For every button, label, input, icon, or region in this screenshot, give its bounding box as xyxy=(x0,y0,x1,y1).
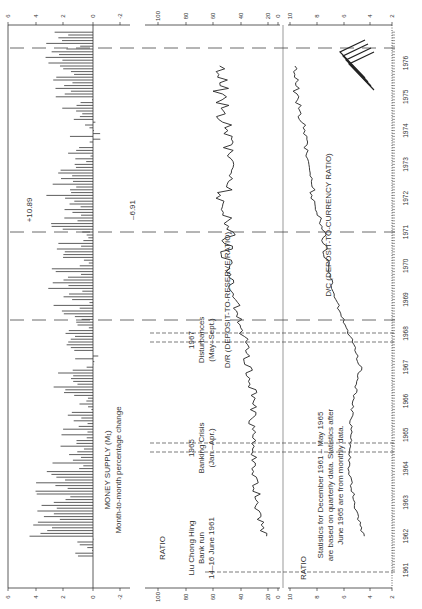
money-supply-subtitle: Month-to-month percentage change xyxy=(114,406,123,534)
annotations: MONEY SUPPLY (M₁) Month-to-month percent… xyxy=(25,153,345,580)
tick-label: 6 xyxy=(341,14,347,18)
tick-label: 0 xyxy=(275,14,281,18)
tick-label: 60 xyxy=(210,593,216,600)
tick-label: -2 xyxy=(117,13,123,19)
crisis-line3: (Jan.–Apr.) xyxy=(207,428,216,467)
year-label: 1966 xyxy=(402,393,409,408)
tick-label: 40 xyxy=(238,12,244,19)
year-label: 1965 xyxy=(402,427,409,442)
tick-label: 6 xyxy=(5,14,11,18)
dist-line2: Disturbances xyxy=(197,317,206,364)
dc-series-label: D/C (DEPOSIT-TO-CURRENCY RATIO) xyxy=(324,153,333,297)
liu-line1: Liu Chong Hing xyxy=(187,520,196,575)
peak-annotation: +10.89 xyxy=(25,197,34,222)
tick-label: 8 xyxy=(314,595,320,599)
dist-line1: 1967 xyxy=(187,331,196,349)
publisher-logo-icon xyxy=(340,40,374,90)
dist-line3: (May–Sept.) xyxy=(207,318,216,362)
tick-label: 20 xyxy=(265,12,271,19)
tick-label: 4 xyxy=(367,595,373,599)
money-supply-panel: 6420-2 6420-2 xyxy=(5,13,130,600)
ratio-label-dr: RATIO xyxy=(158,536,167,560)
year-label: 1971 xyxy=(402,224,409,239)
year-label: 1974 xyxy=(402,123,409,138)
year-label: 1968 xyxy=(402,326,409,341)
tick-label: 0 xyxy=(275,595,281,599)
tick-label: 40 xyxy=(238,593,244,600)
tick-label: 100 xyxy=(155,10,161,21)
tick-label: 10 xyxy=(287,12,293,19)
tick-label: 4 xyxy=(33,14,39,18)
dr-series-label: D/R (DEPOSIT-TO-RESERVE RATIO) xyxy=(223,231,232,368)
year-label: 1961 xyxy=(402,562,409,577)
year-label: 1975 xyxy=(402,89,409,104)
tick-label: 2 xyxy=(60,14,66,18)
tick-label: -2 xyxy=(117,594,123,600)
tick-label: 2 xyxy=(60,595,66,599)
tick-label: 0 xyxy=(90,14,96,18)
ratio-label-dc: RATIO xyxy=(299,556,308,580)
year-label: 1973 xyxy=(402,157,409,172)
year-label: 1964 xyxy=(402,461,409,476)
year-label: 1962 xyxy=(402,529,409,544)
tick-label: 60 xyxy=(210,12,216,19)
tick-label: 0 xyxy=(90,595,96,599)
liu-line3: 14–16 June 1961 xyxy=(207,517,216,579)
tick-label: 20 xyxy=(265,593,271,600)
tick-label: 10 xyxy=(287,593,293,600)
tick-label: 8 xyxy=(314,14,320,18)
tick-label: 80 xyxy=(183,12,189,19)
tick-label: 6 xyxy=(5,595,11,599)
year-label: 1970 xyxy=(402,258,409,273)
year-axis-labels: 1961196219631964196519661967196819691970… xyxy=(392,32,409,577)
note-line3: June 1965 are from monthly data. xyxy=(336,425,345,545)
tick-label: 4 xyxy=(367,14,373,18)
liu-line2: Bank run xyxy=(197,532,206,564)
tick-label: 100 xyxy=(155,591,161,602)
year-label: 1963 xyxy=(402,495,409,510)
note-line1: Statistics for December 1961 – May 1965 xyxy=(316,411,325,558)
tick-label: 6 xyxy=(341,595,347,599)
trough-annotation: –6.91 xyxy=(128,199,137,220)
crisis-line1: 1965 xyxy=(187,439,196,457)
money-supply-title: MONEY SUPPLY (M₁) xyxy=(103,430,112,509)
year-label: 1976 xyxy=(402,55,409,70)
year-label: 1969 xyxy=(402,292,409,307)
dr-ratio-panel: 100806040200 100806040200 xyxy=(145,10,281,602)
year-label: 1972 xyxy=(402,191,409,206)
note-line2: are based on quarterly data. Statistics … xyxy=(326,408,335,561)
tick-label: 2 xyxy=(389,14,395,18)
tick-label: 80 xyxy=(183,593,189,600)
crisis-line2: Banking Crisis xyxy=(197,422,206,473)
tick-label: 4 xyxy=(33,595,39,599)
rotated-figure: 6420-2 6420-2 100806040200 100806040200 … xyxy=(0,0,422,609)
year-label: 1967 xyxy=(402,360,409,375)
tick-label: 2 xyxy=(389,595,395,599)
